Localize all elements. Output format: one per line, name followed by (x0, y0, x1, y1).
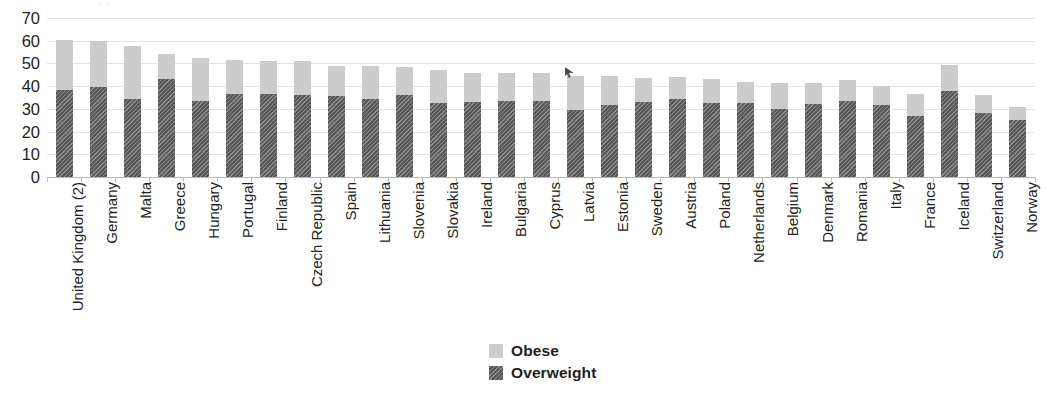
x-axis-category-label: Malta (138, 182, 153, 219)
bar-segment-obese (226, 60, 243, 94)
bar-stack (158, 54, 175, 177)
x-axis-category-label: Estonia (615, 182, 630, 232)
bar-segment-obese (464, 73, 481, 103)
bar-stack (192, 58, 209, 177)
bar-stack (771, 83, 788, 177)
x-axis-category-label: Latvia (581, 182, 596, 222)
bar-segment-overweight (464, 102, 481, 177)
x-axis-category-label: Spain (343, 182, 358, 220)
x-axis-category-label: Germany (104, 182, 119, 244)
bar-stack (260, 61, 277, 177)
bar-stack (941, 65, 958, 177)
bar-stack (669, 77, 686, 177)
bar-segment-overweight (771, 109, 788, 177)
bar-segment-obese (703, 79, 720, 103)
bar-segment-overweight (430, 103, 447, 177)
bar-stack (601, 76, 618, 177)
bar-segment-overweight (601, 105, 618, 177)
x-axis-category-label: Austria (683, 182, 698, 229)
bar-stack (124, 46, 141, 177)
bar-segment-overweight (703, 103, 720, 177)
bar-segment-overweight (396, 95, 413, 177)
bar-segment-overweight (158, 79, 175, 177)
bar-segment-overweight (567, 110, 584, 177)
x-axis-category-label: Lithuania (377, 182, 392, 243)
bar-segment-overweight (737, 103, 754, 177)
bar-stack (839, 80, 856, 177)
x-axis-category-label: United Kingdom (2) (70, 182, 85, 311)
chart-legend: Obese Overweight (489, 340, 596, 384)
x-axis-category-label: Slovakia (445, 182, 460, 239)
bar-segment-overweight (192, 101, 209, 177)
bar-stack (362, 66, 379, 177)
bar-segment-overweight (498, 101, 515, 177)
bar-segment-overweight (805, 104, 822, 177)
bar-stack (533, 73, 550, 177)
bar-segment-obese (567, 76, 584, 110)
bar-segment-overweight (124, 99, 141, 177)
bar-stack (226, 60, 243, 177)
x-axis-category-label: Romania (854, 182, 869, 242)
bar-segment-obese (873, 86, 890, 105)
bar-segment-obese (430, 70, 447, 103)
bar-segment-overweight (56, 90, 73, 177)
bar-segment-overweight (907, 116, 924, 177)
y-axis-tick-label: 30 (6, 101, 40, 118)
bar-segment-overweight (90, 87, 107, 177)
bar-segment-obese (294, 61, 311, 95)
bar-stack (464, 73, 481, 177)
bar-stack (430, 70, 447, 177)
bar-segment-obese (260, 61, 277, 94)
bar-series-container (47, 18, 1035, 177)
x-axis-category-labels: United Kingdom (2)GermanyMaltaGreeceHung… (47, 182, 1035, 332)
bar-segment-obese (805, 83, 822, 105)
legend-item-obese: Obese (489, 340, 596, 362)
x-axis-category-label: Ireland (479, 182, 494, 228)
bar-segment-obese (90, 41, 107, 88)
x-axis-category-label: Denmark (820, 182, 835, 243)
legend-label-obese: Obese (511, 342, 559, 360)
x-axis-category-label: Finland (274, 182, 289, 231)
bar-segment-overweight (941, 91, 958, 177)
bar-stack (703, 79, 720, 177)
bar-segment-overweight (294, 95, 311, 177)
bar-stack (567, 76, 584, 177)
x-axis-category-label: Portugal (240, 182, 255, 238)
bar-stack (873, 86, 890, 177)
bar-segment-overweight (873, 105, 890, 177)
bar-stack (737, 82, 754, 177)
chart-root: · · 706050403020100 United Kingdom (2)Ge… (0, 0, 1048, 395)
bar-stack (907, 94, 924, 177)
x-axis-category-label: Netherlands (751, 182, 766, 263)
bar-segment-obese (737, 82, 754, 104)
bar-stack (635, 78, 652, 177)
bar-stack (498, 73, 515, 177)
y-axis-tick-label: 40 (6, 78, 40, 95)
y-axis-tick-label: 60 (6, 33, 40, 50)
bar-segment-obese (56, 40, 73, 90)
x-axis-category-label: France (922, 182, 937, 229)
bar-segment-obese (396, 67, 413, 95)
y-axis-tick-label: 70 (6, 10, 40, 27)
x-axis-category-label: Greece (172, 182, 187, 231)
bar-stack (1009, 107, 1026, 177)
bar-stack (975, 95, 992, 177)
y-axis-tick-label: 20 (6, 124, 40, 141)
bar-segment-obese (192, 58, 209, 101)
x-axis-category-label: Sweden (649, 182, 664, 236)
bar-segment-overweight (839, 101, 856, 177)
x-axis-category-label: Hungary (206, 182, 221, 239)
bar-segment-overweight (669, 99, 686, 177)
legend-item-overweight: Overweight (489, 362, 596, 384)
bar-segment-obese (907, 94, 924, 116)
bar-stack (90, 41, 107, 177)
x-axis-category-label: Slovenia (411, 182, 426, 240)
bar-segment-overweight (328, 96, 345, 177)
bar-segment-overweight (533, 101, 550, 177)
bar-segment-obese (771, 83, 788, 109)
bar-stack (396, 67, 413, 177)
bar-stack (328, 66, 345, 177)
y-axis-tick-label: 0 (6, 169, 40, 186)
x-axis-category-label: Bulgaria (513, 182, 528, 237)
y-axis-tick-label: 10 (6, 146, 40, 163)
